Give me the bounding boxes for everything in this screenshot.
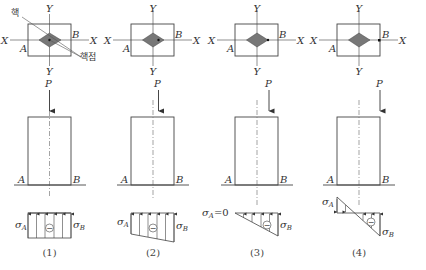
load-label: P [153,78,161,89]
column-elevation-4: P A B [323,78,395,205]
eccentric-load-diagram: 핵 핵점 X X Y Y A B P A B [0,0,426,270]
load-point [378,39,381,42]
cross-section-4: X X Y Y A B [309,3,407,77]
x-axis-label-right: X [398,35,407,46]
point-a-label: A [17,174,25,185]
y-axis-label-bottom: Y [356,66,364,77]
core-region [349,33,371,47]
load-point [267,39,269,41]
stress-diagram-2: − σA σB [117,213,188,242]
stress-diagram-4: − σA σB [322,196,394,239]
cross-section-2: X X Y Y A B [103,3,201,77]
x-axis-label-right: X [296,35,305,46]
sigma-a-zero-label: σA=0 [202,207,229,220]
point-a-label: A [224,174,232,185]
point-a-label: A [328,43,336,54]
panel-caption-1: (1) [42,247,56,258]
point-b-label: B [72,174,80,185]
panel-caption-2: (2) [146,247,160,258]
compression-sign: − [368,218,375,227]
sigma-a-label: σA [322,196,334,209]
x-axis-label-left: X [207,35,216,46]
x-axis-label-right: X [89,35,98,46]
core-point-label: 핵점 [80,51,96,62]
y-axis-label-top: Y [254,3,262,14]
column-elevation-2: P A B [117,78,189,198]
point-b-label: B [71,29,79,40]
y-axis-label-top: Y [150,3,158,14]
y-axis-label-bottom: Y [254,66,262,77]
x-axis-label-left: X [103,35,112,46]
compression-sign: − [150,224,157,233]
y-axis-label-bottom: Y [150,66,158,77]
sigma-b-label: σB [73,219,85,232]
point-b-label: B [278,29,286,40]
sigma-b-label: σB [176,220,188,233]
stress-diagram-3: − σA=0 σB [202,207,292,236]
core-label: 핵 [11,7,19,18]
load-label: P [375,78,383,89]
point-b-label: B [174,29,182,40]
x-axis-label-left: X [0,35,9,46]
load-point [157,39,159,41]
point-a-label: A [326,174,334,185]
core-region [143,33,165,47]
sigma-b-label: σB [280,219,292,232]
point-b-label: B [381,174,389,185]
panel-2: X X Y Y A B P A B [103,3,201,258]
panel-caption-4: (4) [352,247,366,258]
load-label: P [264,78,272,89]
y-axis-label-top: Y [356,3,364,14]
core-region [247,33,269,47]
point-a-label: A [226,43,234,54]
point-a-label: A [122,43,130,54]
cross-section-3: X X Y Y A B [207,3,305,77]
sigma-a-label: σA [117,216,129,229]
column-elevation-3: P A B [221,78,293,205]
compression-sign: − [264,221,271,230]
panel-3: X X Y Y A B P A B − [202,3,305,258]
point-b-label: B [175,174,183,185]
panel-caption-3: (3) [250,247,264,258]
point-b-label: B [279,174,287,185]
compression-sign: − [46,224,53,233]
stress-diagram-1: − σA σB [15,213,85,238]
load-label: P [44,78,52,89]
x-axis-label-right: X [192,35,201,46]
point-a-label: A [120,174,128,185]
panel-4: X X Y Y A B P A B [309,3,407,258]
sigma-b-label: σB [382,226,394,239]
sigma-a-label: σA [15,219,27,232]
x-axis-label-left: X [309,35,318,46]
point-b-label: B [381,29,389,40]
point-a-label: A [19,43,27,54]
panel-1: 핵 핵점 X X Y Y A B P A B [0,3,98,258]
y-axis-label-top: Y [46,3,54,14]
column-elevation-1: P A B [14,78,86,198]
cross-section-1: 핵 핵점 X X Y Y A B [0,3,98,77]
y-axis-label-bottom: Y [46,66,54,77]
